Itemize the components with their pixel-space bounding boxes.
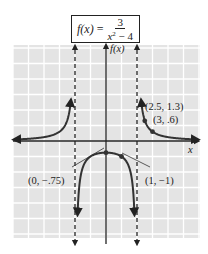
point-label-0: (0, −.75)	[28, 175, 65, 186]
point-label-2-5: (2.5, 1.3)	[145, 101, 184, 112]
formula-box: f(x) = 3 x2 − 4	[71, 15, 140, 43]
y-axis-label: f(x)	[110, 43, 125, 54]
x-axis-label: x	[188, 144, 193, 155]
point-marker	[142, 118, 147, 123]
formula-numerator: 3	[115, 17, 125, 29]
point-marker	[104, 150, 109, 155]
formula-fraction: 3 x2 − 4	[106, 17, 134, 42]
formula-den-rest: − 4	[116, 30, 133, 42]
point-marker	[150, 129, 155, 134]
formula-equals: =	[97, 22, 104, 37]
point-label-1: (1, −1)	[145, 175, 174, 186]
formula-denominator: x2 − 4	[106, 29, 134, 42]
point-label-3: (3, .6)	[153, 114, 178, 125]
point-marker	[119, 154, 124, 159]
formula-lhs: f(x)	[77, 22, 94, 37]
